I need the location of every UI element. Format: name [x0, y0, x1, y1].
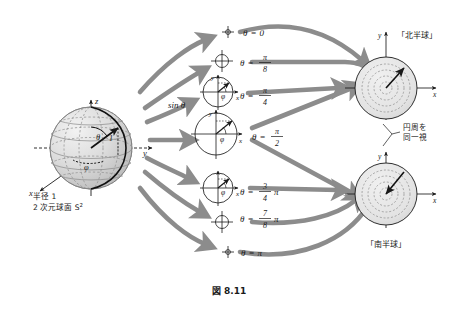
svg-text:3: 3: [262, 182, 267, 191]
sphere-axis-z-label: z: [94, 96, 99, 106]
sphere-phi-label: φ: [84, 162, 89, 172]
annotation-line-2: 同一視: [403, 133, 427, 142]
svg-text:8: 8: [263, 221, 267, 230]
svg-text:θ=: θ=: [252, 132, 266, 142]
sphere-surface-caption: 2 次元球面 S2: [33, 202, 83, 212]
svg-text:φ: φ: [221, 188, 225, 197]
figure-canvas: z y x θ 1 φ 半径 1 2 次元球面 S2 θ=0 θ= π 8: [0, 0, 458, 309]
annotation-line-1: 円周を: [403, 123, 427, 132]
svg-text:4: 4: [263, 194, 267, 203]
disk-north-axis-x-label: x: [432, 90, 437, 99]
disk-south-title: 「南半球」: [366, 239, 406, 249]
svg-text:8: 8: [263, 65, 267, 74]
svg-text:π: π: [274, 214, 279, 224]
disk-south-axis-y-label: y: [377, 152, 382, 161]
sphere-radius-label: 1: [109, 134, 113, 143]
svg-text:φ: φ: [220, 135, 224, 144]
sphere-radius-caption: 半径 1: [33, 191, 56, 201]
svg-text:π: π: [274, 187, 279, 197]
figure-caption: 図 8.11: [212, 286, 246, 296]
disk-north-axis-y-label: y: [377, 31, 382, 40]
sphere-axis-y-label: y: [142, 148, 147, 158]
svg-text:θ=: θ=: [240, 214, 254, 224]
svg-text:θ=: θ=: [240, 91, 254, 101]
svg-text:θ=: θ=: [240, 187, 254, 197]
disk-south-axis-x-label: x: [432, 196, 437, 205]
disk-north-title: 「北半球」: [397, 30, 437, 40]
figure-8-11: z y x θ 1 φ 半径 1 2 次元球面 S2 θ=0 θ= π 8: [0, 0, 458, 309]
svg-text:φ: φ: [221, 92, 225, 101]
svg-text:4: 4: [263, 98, 267, 107]
svg-text:2: 2: [275, 139, 279, 148]
slice-theta-pi-label: θ=π: [241, 248, 263, 258]
sphere-theta-label: θ: [96, 132, 100, 142]
sin-theta-label: sin θ: [168, 100, 186, 110]
slice-theta-0-label: θ=0: [243, 28, 265, 38]
svg-text:θ=: θ=: [240, 58, 254, 68]
